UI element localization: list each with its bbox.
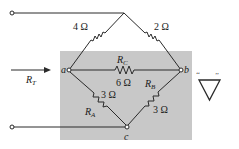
node-a [67,68,71,72]
node-b-label: b [184,64,189,75]
delta-quote-open: ‘‘ [196,71,200,79]
label-rt: RT [25,74,37,87]
bottom-terminal [10,125,14,129]
delta-quote-close: ’’ [215,71,219,79]
label-ra-3-ohm: 3 Ω [101,89,116,100]
node-b [179,68,183,72]
node-a-label: a [61,64,66,75]
top-terminal [10,11,14,15]
label-rb-3-ohm: 3 Ω [153,104,168,115]
node-c-label: c [124,131,129,142]
node-c [125,125,129,129]
label-4-ohm: 4 Ω [73,21,88,32]
bridge-circuit-diagram: 4 Ω 2 Ω RC 6 Ω 3 Ω RA RB 3 Ω a b c RT ‘‘… [0,0,239,149]
rt-arrow-head-icon [44,67,51,73]
delta-triangle-icon [199,80,220,100]
label-2-ohm: 2 Ω [154,21,169,32]
label-6-ohm: 6 Ω [116,77,131,88]
